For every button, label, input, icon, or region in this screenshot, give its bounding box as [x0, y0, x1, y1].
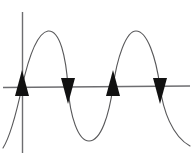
figure-canvas	[0, 0, 193, 161]
sine-wave-figure	[0, 0, 193, 161]
